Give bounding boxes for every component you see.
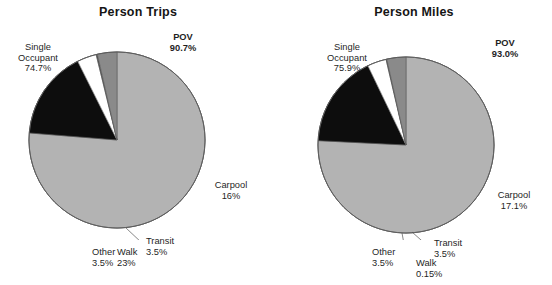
slice-label-walk: Walk0.15% bbox=[416, 258, 468, 279]
slice-label-other: Other3.5% bbox=[92, 247, 126, 268]
slice-label-transit: Transit3.5% bbox=[434, 238, 482, 259]
slice-label-single-occupant: SingleOccupant75.9% bbox=[314, 42, 380, 74]
chart-panel-person-trips: Person Trips SingleOccupant74.7% POV90.7… bbox=[0, 0, 276, 285]
annotation-label-pov: POV90.7% bbox=[146, 32, 220, 53]
slice-label-carpool: Carpool17.1% bbox=[484, 190, 544, 211]
slice-label-other: Other3.5% bbox=[372, 247, 408, 268]
slice-label-carpool: Carpool16% bbox=[200, 180, 262, 201]
annotation-label-pov: POV93.0% bbox=[472, 38, 538, 59]
chart-title-person-miles: Person Miles bbox=[276, 5, 552, 19]
slice-label-single-occupant: SingleOccupant74.7% bbox=[6, 42, 70, 74]
chart-panel-person-miles: Person Miles SingleOccupant75.9% POV93.0… bbox=[276, 0, 552, 285]
leader-line-transit bbox=[412, 232, 430, 240]
chart-title-person-trips: Person Trips bbox=[0, 5, 276, 19]
leader-line-transit bbox=[126, 228, 142, 240]
leader-line-walk bbox=[402, 233, 406, 240]
slice-label-transit: Transit3.5% bbox=[146, 236, 202, 257]
